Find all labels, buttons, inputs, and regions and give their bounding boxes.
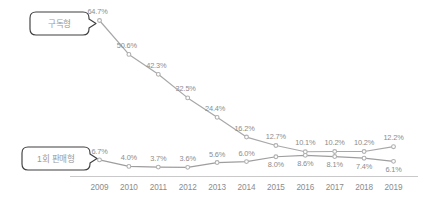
value-label-2019-onetime: 6.1% (385, 166, 401, 173)
value-label-2011-subscription: 42.3% (146, 62, 166, 69)
value-label-2013-subscription: 24.4% (205, 105, 225, 112)
x-tick-2015: 2015 (267, 184, 285, 192)
x-tick-2011: 2011 (150, 184, 167, 192)
callout-label-subscription: 구독형 (48, 19, 71, 28)
value-label-2016-onetime: 8.6% (297, 160, 313, 167)
value-label-2013-onetime: 5.6% (209, 151, 225, 158)
value-label-2019-subscription: 12.2% (383, 134, 403, 141)
value-label-2010-onetime: 4.0% (121, 154, 137, 161)
value-label-2012-onetime: 3.6% (180, 155, 196, 162)
x-tick-2009: 2009 (91, 184, 109, 192)
x-tick-2016: 2016 (296, 184, 314, 192)
value-label-2015-subscription: 12.7% (266, 133, 286, 140)
value-label-2016-subscription: 10.1% (295, 139, 315, 146)
x-tick-2010: 2010 (120, 184, 138, 192)
value-label-2018-onetime: 7.4% (356, 163, 372, 170)
value-label-2018-subscription: 10.2% (354, 139, 374, 146)
x-tick-2019: 2019 (385, 184, 403, 192)
x-tick-2012: 2012 (179, 184, 197, 192)
value-label-2015-onetime: 8.0% (268, 161, 284, 168)
callout-label-onetime: 1회 판매형 (37, 154, 75, 163)
callout-layer (0, 0, 429, 205)
value-label-2011-onetime: 3.7% (150, 155, 166, 162)
value-label-2014-onetime: 6.0% (238, 150, 254, 157)
value-label-2009-onetime: 6.7% (91, 148, 107, 155)
value-label-2012-subscription: 32.5% (176, 85, 196, 92)
x-tick-2014: 2014 (238, 184, 256, 192)
value-label-2010-subscription: 50.6% (117, 42, 137, 49)
value-label-2009-subscription: 64.7% (87, 8, 107, 15)
value-label-2014-subscription: 16.2% (234, 125, 254, 132)
value-label-2017-subscription: 10.2% (325, 139, 345, 146)
value-label-2017-onetime: 8.1% (327, 161, 343, 168)
x-tick-2018: 2018 (355, 184, 373, 192)
x-tick-2017: 2017 (326, 184, 344, 192)
x-tick-2013: 2013 (208, 184, 226, 192)
chart-container: 구독형1회 판매형 64.7%50.6%42.3%32.5%24.4%16.2%… (0, 0, 429, 205)
